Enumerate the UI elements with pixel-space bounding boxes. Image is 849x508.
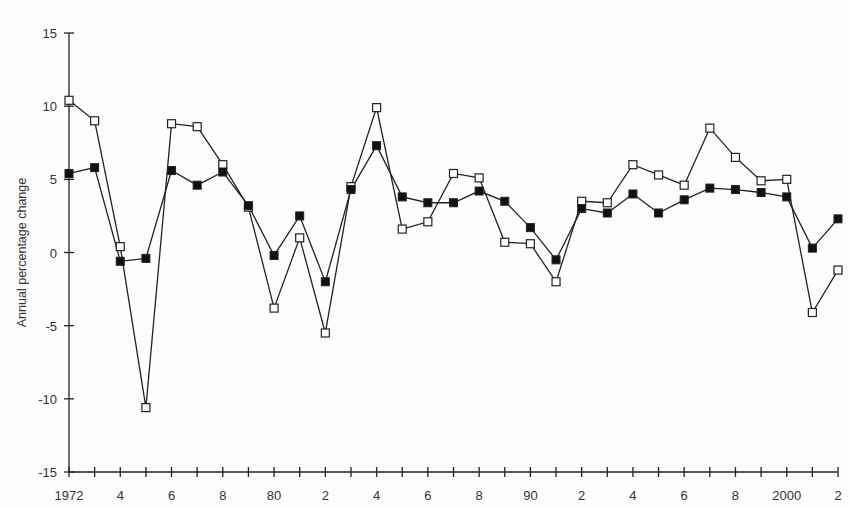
x-tick-label: 2000 bbox=[772, 488, 801, 503]
data-point bbox=[757, 189, 765, 197]
y-tick-label: 15 bbox=[43, 26, 57, 41]
y-tick-label: 0 bbox=[50, 246, 57, 261]
x-tick-label: 8 bbox=[476, 488, 483, 503]
data-point bbox=[526, 224, 534, 232]
x-tick-label: 2 bbox=[834, 488, 841, 503]
data-point bbox=[706, 184, 714, 192]
series-layer bbox=[65, 96, 842, 411]
x-tick-label: 2 bbox=[322, 488, 329, 503]
data-point bbox=[168, 120, 176, 128]
data-point bbox=[193, 181, 201, 189]
data-point bbox=[629, 190, 637, 198]
series-filled bbox=[69, 146, 838, 282]
x-tick-label: 6 bbox=[168, 488, 175, 503]
markers-open bbox=[65, 96, 842, 411]
series-line bbox=[69, 100, 838, 407]
data-point bbox=[834, 215, 842, 223]
data-point bbox=[783, 175, 791, 183]
data-point bbox=[270, 304, 278, 312]
y-tick-label: -15 bbox=[38, 465, 57, 480]
data-point bbox=[655, 171, 663, 179]
data-point bbox=[65, 96, 73, 104]
data-point bbox=[552, 256, 560, 264]
data-point bbox=[501, 238, 509, 246]
data-point bbox=[578, 205, 586, 213]
data-point bbox=[270, 251, 278, 259]
x-tick-label: 2 bbox=[578, 488, 585, 503]
data-point bbox=[321, 329, 329, 337]
data-point bbox=[808, 244, 816, 252]
x-tick-label: 8 bbox=[732, 488, 739, 503]
data-point bbox=[193, 123, 201, 131]
axes bbox=[69, 33, 838, 472]
data-point bbox=[142, 254, 150, 262]
x-tick-label: 6 bbox=[681, 488, 688, 503]
data-point bbox=[783, 193, 791, 201]
data-point bbox=[731, 153, 739, 161]
data-point bbox=[244, 202, 252, 210]
data-point bbox=[373, 104, 381, 112]
data-point bbox=[680, 196, 688, 204]
data-point bbox=[578, 197, 586, 205]
y-tick-label: 10 bbox=[43, 99, 57, 114]
data-point bbox=[757, 177, 765, 185]
x-tick-label: 80 bbox=[267, 488, 281, 503]
data-point bbox=[424, 199, 432, 207]
data-point bbox=[116, 243, 124, 251]
y-axis-label: Annual percentage change bbox=[15, 178, 29, 327]
line-chart: 151050-5-10-15 197246880246890246820002 … bbox=[0, 0, 849, 508]
x-tick-label: 1972 bbox=[55, 488, 84, 503]
data-point bbox=[834, 266, 842, 274]
data-point bbox=[142, 404, 150, 412]
y-tick-label: -5 bbox=[45, 319, 57, 334]
data-point bbox=[526, 240, 534, 248]
data-point bbox=[552, 278, 560, 286]
data-point bbox=[680, 181, 688, 189]
data-point bbox=[398, 193, 406, 201]
data-point bbox=[655, 209, 663, 217]
data-point bbox=[501, 197, 509, 205]
data-point bbox=[168, 167, 176, 175]
y-tick-label: 5 bbox=[50, 172, 57, 187]
data-point bbox=[603, 209, 611, 217]
data-point bbox=[296, 212, 304, 220]
data-point bbox=[219, 161, 227, 169]
data-point bbox=[91, 117, 99, 125]
data-point bbox=[706, 124, 714, 132]
data-point bbox=[398, 225, 406, 233]
data-point bbox=[603, 199, 611, 207]
x-tick-label: 4 bbox=[373, 488, 380, 503]
x-tick-label: 8 bbox=[219, 488, 226, 503]
data-point bbox=[65, 169, 73, 177]
data-point bbox=[475, 187, 483, 195]
data-point bbox=[629, 161, 637, 169]
x-tick-label: 4 bbox=[629, 488, 636, 503]
data-point bbox=[91, 164, 99, 172]
data-point bbox=[808, 308, 816, 316]
data-point bbox=[450, 169, 458, 177]
markers-filled bbox=[65, 142, 842, 286]
data-point bbox=[116, 257, 124, 265]
x-tick-label: 6 bbox=[424, 488, 431, 503]
data-point bbox=[450, 199, 458, 207]
data-point bbox=[475, 174, 483, 182]
x-tick-label: 4 bbox=[117, 488, 124, 503]
data-point bbox=[321, 278, 329, 286]
data-point bbox=[373, 142, 381, 150]
series-open bbox=[69, 100, 838, 407]
x-tick-label: 90 bbox=[523, 488, 537, 503]
data-point bbox=[731, 186, 739, 194]
data-point bbox=[219, 168, 227, 176]
series-line bbox=[69, 146, 838, 282]
y-tick-label: -10 bbox=[38, 392, 57, 407]
data-point bbox=[296, 234, 304, 242]
data-point bbox=[347, 186, 355, 194]
data-point bbox=[424, 218, 432, 226]
